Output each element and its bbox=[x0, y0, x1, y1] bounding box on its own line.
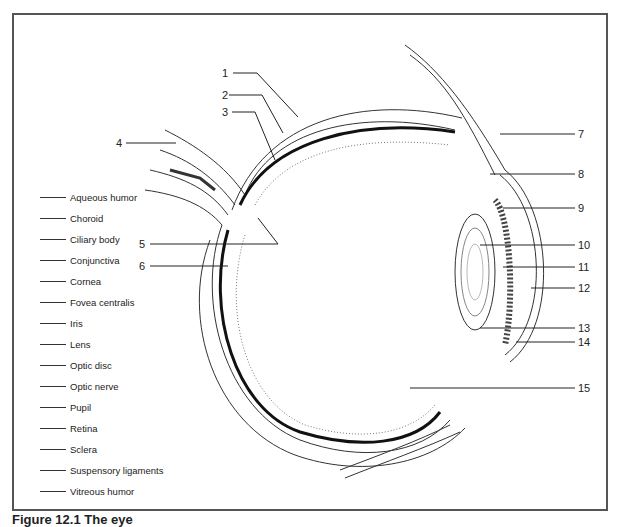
label-6: 6 bbox=[139, 260, 145, 272]
answer-blank[interactable] bbox=[40, 470, 66, 471]
label-5: 5 bbox=[139, 238, 145, 250]
muscle bbox=[405, 45, 505, 175]
answer-blank[interactable] bbox=[40, 344, 66, 345]
answer-blank[interactable] bbox=[40, 281, 66, 282]
optic-nerve bbox=[145, 130, 245, 225]
label-2: 2 bbox=[222, 89, 228, 101]
label-4: 4 bbox=[116, 137, 122, 149]
label-8: 8 bbox=[578, 168, 584, 180]
label-12: 12 bbox=[578, 282, 590, 294]
answer-blank[interactable] bbox=[40, 365, 66, 366]
term-item: Cornea bbox=[40, 274, 101, 290]
term-item: Choroid bbox=[40, 211, 103, 227]
answer-blank[interactable] bbox=[40, 323, 66, 324]
figure-caption: Figure 12.1 The eye bbox=[12, 512, 133, 527]
label-10: 10 bbox=[578, 239, 590, 251]
term-item: Vitreous humor bbox=[40, 484, 134, 500]
answer-blank[interactable] bbox=[40, 260, 66, 261]
label-15: 15 bbox=[578, 382, 590, 394]
term-item: Optic disc bbox=[40, 358, 112, 374]
answer-blank[interactable] bbox=[40, 197, 66, 198]
label-3: 3 bbox=[222, 106, 228, 118]
iris bbox=[495, 200, 510, 345]
label-9: 9 bbox=[578, 202, 584, 214]
answer-blank[interactable] bbox=[40, 449, 66, 450]
answer-blank[interactable] bbox=[40, 491, 66, 492]
label-1: 1 bbox=[222, 67, 228, 79]
retina bbox=[236, 142, 450, 434]
label-13: 13 bbox=[578, 322, 590, 334]
term-item: Sclera bbox=[40, 442, 97, 458]
sclera bbox=[199, 110, 465, 467]
term-item: Lens bbox=[40, 337, 91, 353]
term-item: Conjunctiva bbox=[40, 253, 120, 269]
answer-blank[interactable] bbox=[40, 218, 66, 219]
answer-blank[interactable] bbox=[40, 386, 66, 387]
answer-blank[interactable] bbox=[40, 407, 66, 408]
term-item: Ciliary body bbox=[40, 232, 120, 248]
answer-blank[interactable] bbox=[40, 428, 66, 429]
term-item: Iris bbox=[40, 316, 83, 332]
label-14: 14 bbox=[578, 336, 590, 348]
answer-blank[interactable] bbox=[40, 302, 66, 303]
label-11: 11 bbox=[578, 261, 589, 273]
term-item: Optic nerve bbox=[40, 379, 119, 395]
term-item: Suspensory ligaments bbox=[40, 463, 163, 479]
term-item: Fovea centralis bbox=[40, 295, 134, 311]
choroid bbox=[240, 128, 455, 205]
label-7: 7 bbox=[578, 128, 584, 140]
answer-blank[interactable] bbox=[40, 239, 66, 240]
term-item: Pupil bbox=[40, 400, 91, 416]
term-item: Retina bbox=[40, 421, 97, 437]
term-item: Aqueous humor bbox=[40, 190, 137, 206]
